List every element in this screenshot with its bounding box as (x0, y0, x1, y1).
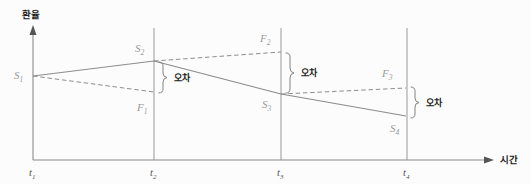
error-label-t2: 오차 (174, 72, 191, 83)
forward-segment-f3 (281, 88, 406, 94)
label-s3: S3 (262, 98, 272, 113)
forward-segment-f2 (154, 52, 281, 61)
figure-container: 환율 시간 t1 t2 t3 t4 (0, 0, 531, 184)
error-brace-t4-group: 오차 (411, 87, 443, 118)
label-f1: F1 (136, 101, 147, 116)
error-label-t3: 오차 (301, 67, 318, 78)
x-axis-title: 시간 (500, 154, 518, 165)
tick-label-t2: t2 (150, 167, 157, 181)
spot-point-labels: S1 S2 S3 S4 (14, 42, 400, 137)
tick-label-t1: t1 (29, 167, 35, 181)
error-brace-t3-group: 오차 (286, 53, 318, 93)
error-brace-t4 (411, 87, 419, 118)
exchange-rate-forecast-error-diagram: 환율 시간 t1 t2 t3 t4 (0, 0, 531, 184)
spot-rate-series (33, 61, 406, 116)
time-tick-labels: t1 t2 t3 t4 (29, 167, 410, 181)
label-f2: F2 (259, 32, 271, 47)
forward-rate-series (33, 52, 406, 94)
y-axis-group: 환율 (22, 9, 40, 160)
error-brace-t2 (159, 62, 167, 93)
y-axis-title: 환율 (22, 9, 40, 20)
error-label-t4: 오차 (426, 97, 443, 108)
label-s4: S4 (390, 122, 400, 137)
label-f3: F3 (381, 67, 393, 82)
forward-segment-f1 (33, 76, 154, 92)
tick-label-t3: t3 (277, 167, 284, 181)
x-axis-group: 시간 (33, 154, 518, 165)
y-axis-arrowhead (30, 25, 37, 35)
label-s2: S2 (135, 42, 145, 57)
label-s1: S1 (14, 69, 23, 84)
tick-label-t4: t4 (403, 167, 410, 181)
error-brace-t3 (286, 53, 294, 93)
spot-rate-path (33, 61, 406, 116)
x-axis-arrowhead (484, 157, 494, 164)
